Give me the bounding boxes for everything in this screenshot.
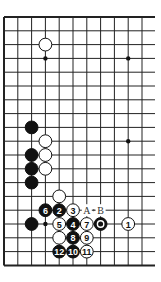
white-stone: 9 [80, 231, 93, 244]
stone-body [39, 162, 52, 175]
move-number: 3 [70, 206, 75, 216]
move-number: 9 [84, 233, 89, 243]
point-label: A [83, 205, 91, 216]
stone-body [53, 190, 66, 203]
black-stone: 10 [67, 245, 80, 258]
stone-body [53, 231, 66, 244]
white-stone: 1 [122, 218, 135, 231]
star-point [126, 56, 130, 60]
white-stone [53, 190, 66, 203]
black-stone: 12 [53, 245, 66, 258]
black-stone [25, 218, 38, 231]
white-stone: 7 [80, 218, 93, 231]
black-stone: 2 [53, 204, 66, 217]
black-stone: 6 [39, 204, 52, 217]
stone-body [39, 149, 52, 162]
move-number: 12 [54, 247, 64, 257]
point-labels: AB [82, 204, 106, 216]
stones: 623547189121011 [25, 38, 134, 258]
stone-body [94, 218, 107, 231]
star-point [126, 139, 130, 143]
separator-dot [93, 209, 95, 211]
move-number: 4 [70, 220, 75, 230]
black-stone: 8 [67, 231, 80, 244]
black-stone [25, 176, 38, 189]
move-number: 1 [126, 220, 131, 230]
white-stone: 3 [67, 204, 80, 217]
stone-body [25, 121, 38, 134]
stone-body [25, 162, 38, 175]
white-stone: 5 [53, 218, 66, 231]
stone-body [39, 38, 52, 51]
white-stone: 11 [80, 245, 93, 258]
white-stone [39, 38, 52, 51]
white-stone [39, 149, 52, 162]
white-stone [39, 135, 52, 148]
black-stone [94, 218, 107, 231]
point-label: B [97, 205, 104, 216]
black-stone: 4 [67, 218, 80, 231]
move-number: 7 [84, 220, 89, 230]
star-point [43, 222, 47, 226]
black-stone [25, 121, 38, 134]
stone-body [25, 176, 38, 189]
stone-body [25, 218, 38, 231]
white-stone [53, 231, 66, 244]
stone-body [25, 149, 38, 162]
move-number: 10 [68, 247, 78, 257]
stone-body [39, 135, 52, 148]
black-stone [25, 149, 38, 162]
move-number: 2 [57, 206, 62, 216]
move-number: 6 [43, 206, 48, 216]
move-number: 5 [57, 220, 62, 230]
black-stone [25, 162, 38, 175]
white-stone [39, 162, 52, 175]
move-number: 8 [70, 233, 75, 243]
move-number: 11 [82, 247, 92, 257]
star-point [43, 56, 47, 60]
go-board-diagram: AB 623547189121011 [0, 0, 161, 282]
